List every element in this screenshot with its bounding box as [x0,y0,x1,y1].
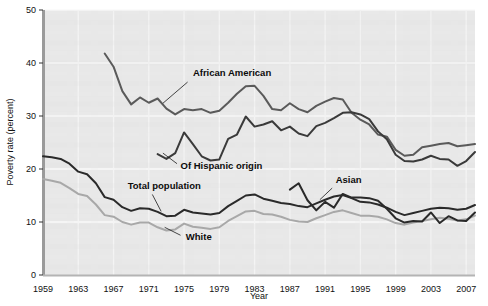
texture-band [283,10,290,275]
x-tick-label: 1963 [68,284,88,294]
y-tick-label: 10 [26,217,36,227]
texture-band [307,10,314,275]
texture-band [427,10,434,275]
series-label-white: White [186,231,212,242]
x-tick-label: 1991 [315,284,335,294]
y-tick-label: 40 [26,58,36,68]
x-tick-label: 2007 [456,284,476,294]
texture-band [403,10,410,275]
texture-band [91,10,98,275]
chart-canvas: 01020304050 1959196319671971197519791983… [0,0,488,306]
y-tick-label: 0 [31,270,36,280]
series-label-asian: Asian [336,174,362,185]
texture-band [451,10,458,275]
texture-band [331,10,338,275]
texture-band [355,10,362,275]
texture-band [259,10,266,275]
y-axis-title: Poverty rate (percent) [5,98,15,185]
x-axis-title: Year [250,291,268,301]
x-tick-label: 1979 [209,284,229,294]
texture-band [115,10,122,275]
x-tick-label: 1987 [280,284,300,294]
texture-band [163,10,170,275]
texture-band [379,10,386,275]
x-tick-label: 1999 [386,284,406,294]
y-tick-label: 30 [26,111,36,121]
y-tick-label: 50 [26,5,36,15]
x-tick-label: 1995 [350,284,370,294]
texture-band [211,10,218,275]
texture-band [235,10,242,275]
series-label-african-american: African American [193,67,272,78]
x-tick-label: 1967 [104,284,124,294]
series-label-total-population: Total population [128,180,201,191]
x-tick-label: 2003 [421,284,441,294]
x-tick-label: 1959 [33,284,53,294]
poverty-rate-line-chart: 01020304050 1959196319671971197519791983… [0,0,488,306]
x-tick-label: 1975 [174,284,194,294]
x-tick-label: 1971 [139,284,159,294]
texture-band [139,10,146,275]
y-axis-ticks: 01020304050 [26,5,43,280]
texture-band [67,10,74,275]
y-tick-label: 20 [26,164,36,174]
series-label-of-hispanic-origin: Of Hispanic origin [181,160,263,171]
